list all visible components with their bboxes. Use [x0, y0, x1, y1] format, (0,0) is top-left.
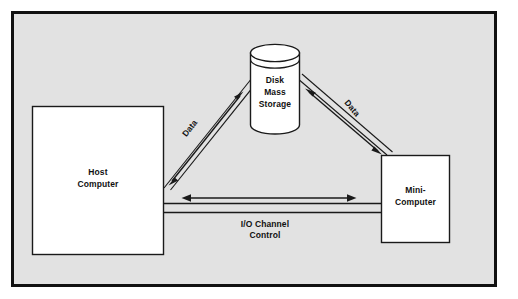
disk-cylinder-top — [251, 44, 300, 61]
host-computer-node[interactable]: Host Computer — [33, 107, 164, 255]
host-computer-label-line1: Host — [88, 167, 107, 177]
mini-computer-label-line1: Mini- — [405, 185, 425, 195]
io-channel-label-line2: Control — [250, 230, 281, 240]
disk-mass-storage-label-line2: Mass — [264, 87, 286, 97]
diagram-canvas: Data Data I/O Channel Control Host Comp — [0, 0, 518, 299]
disk-mass-storage-label-line3: Storage — [259, 99, 292, 109]
mini-computer-label-line2: Computer — [395, 197, 437, 207]
mini-computer-node[interactable]: Mini- Computer — [382, 156, 450, 243]
io-channel-label-line1: I/O Channel — [241, 219, 289, 229]
host-computer-label-line2: Computer — [78, 179, 120, 189]
disk-mass-storage-label-line1: Disk — [266, 75, 285, 85]
block-diagram-svg: Data Data I/O Channel Control Host Comp — [0, 0, 518, 299]
disk-mass-storage-node[interactable]: Disk Mass Storage — [251, 44, 300, 134]
